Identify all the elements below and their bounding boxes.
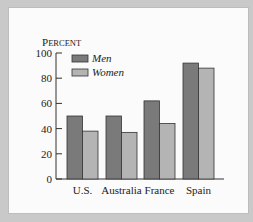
x-tick-label: Australia: [101, 184, 141, 196]
bar-men-0: [67, 116, 83, 179]
y-tick-label: 60: [41, 97, 53, 109]
bar-women-1: [122, 132, 138, 179]
y-tick-label: 0: [47, 173, 53, 185]
x-tick-label: Spain: [186, 184, 212, 196]
x-tick-label: U.S.: [73, 184, 93, 196]
bar-chart: PERCENT 020406080100 MenWomen U.S.Austra…: [0, 0, 253, 222]
y-tick-label: 40: [41, 123, 53, 135]
x-tick-label: France: [145, 184, 175, 196]
y-tick-label: 20: [41, 148, 53, 160]
y-tick-label: 100: [36, 47, 53, 59]
bar-women-3: [199, 68, 215, 179]
legend-swatch-men: [72, 55, 88, 62]
legend-label-women: Women: [92, 66, 124, 78]
legend: MenWomen: [72, 52, 124, 78]
x-axis-labels: U.S.AustraliaFranceSpain: [73, 184, 212, 196]
bar-women-0: [83, 131, 99, 179]
bar-women-2: [160, 124, 176, 179]
legend-label-men: Men: [91, 52, 112, 64]
bar-men-2: [144, 101, 160, 179]
bars: [67, 63, 214, 179]
y-tick-label: 80: [41, 72, 53, 84]
bar-men-3: [183, 63, 199, 179]
legend-swatch-women: [72, 69, 88, 76]
bar-men-1: [106, 116, 122, 179]
